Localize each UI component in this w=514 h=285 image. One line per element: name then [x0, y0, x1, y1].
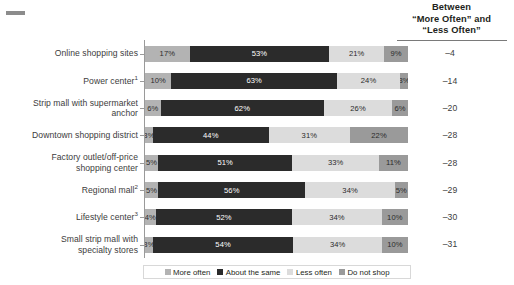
bar-segment: 26%	[324, 100, 392, 116]
net-header-line-3: “Less Often”	[392, 25, 511, 37]
bar-segment: 10%	[382, 237, 408, 253]
legend-item[interactable]: Do not shop	[339, 268, 390, 277]
bar-segment-label: 52%	[216, 213, 232, 222]
bar-segment: 54%	[153, 237, 294, 253]
stacked-bar: 10%63%24%3%	[145, 73, 408, 89]
stacked-bar: 5%56%34%5%	[145, 182, 408, 198]
bar-segment: 17%	[145, 46, 190, 62]
legend-item[interactable]: More often	[165, 268, 211, 277]
net-value: –31	[418, 239, 482, 249]
bar-segment-label: 31%	[302, 131, 318, 140]
bar-segment: 34%	[305, 182, 394, 198]
legend-label: About the same	[226, 268, 281, 277]
bar-segment-label: 17%	[160, 49, 176, 58]
net-header-line-1: Between	[392, 2, 511, 14]
bar-segment-label: 6%	[147, 104, 158, 113]
bar-segment-label: 9%	[391, 49, 402, 58]
net-value: –28	[418, 130, 482, 140]
bar-segment-label: 44%	[203, 131, 219, 140]
bar-segment-label: 10%	[387, 213, 403, 222]
bar-segment: 5%	[145, 155, 158, 171]
bar-segment: 31%	[269, 127, 351, 143]
bar-segment-label: 26%	[350, 104, 366, 113]
bar-segment: 6%	[145, 100, 161, 116]
bar-segment: 33%	[292, 155, 379, 171]
bar-segment-label: 21%	[349, 49, 365, 58]
net-column-header: Between “More Often” and “Less Often”	[392, 2, 511, 41]
bar-segment: 44%	[153, 127, 269, 143]
chart-row: Small strip mall withspecialty stores3%5…	[0, 231, 514, 259]
stacked-bar: 17%53%21%9%	[145, 46, 408, 62]
bar-segment: 53%	[190, 46, 329, 62]
bar-segment: 3%	[400, 73, 408, 89]
category-label: Factory outlet/off-priceshopping center	[8, 152, 138, 173]
bar-segment: 62%	[161, 100, 324, 116]
stacked-bar: 3%44%31%22%	[145, 127, 408, 143]
bar-segment-label: 33%	[328, 158, 344, 167]
category-label: Power center1	[8, 76, 138, 86]
bar-segment: 9%	[384, 46, 408, 62]
net-value: –30	[418, 212, 482, 222]
bar-segment-label: 51%	[217, 158, 233, 167]
bar-segment: 11%	[379, 155, 408, 171]
category-label: Downtown shopping district	[8, 130, 138, 140]
bar-segment-label: 34%	[330, 240, 346, 249]
category-label: Regional mall2	[8, 185, 138, 195]
bar-segment: 51%	[158, 155, 292, 171]
bar-segment-label: 53%	[252, 49, 268, 58]
legend-swatch-icon	[287, 269, 293, 275]
chart-row: Online shopping sites17%53%21%9%–4	[0, 40, 514, 68]
bar-segment-label: 56%	[224, 186, 240, 195]
bar-segment: 6%	[392, 100, 408, 116]
bar-segment-label: 22%	[371, 131, 387, 140]
legend-label: More often	[173, 268, 210, 277]
bar-segment-label: 54%	[215, 240, 231, 249]
category-label: Online shopping sites	[8, 48, 138, 58]
stacked-bar: 5%51%33%11%	[145, 155, 408, 171]
bar-segment: 34%	[292, 209, 381, 225]
chart-row: Strip mall with supermarketanchor6%62%26…	[0, 95, 514, 123]
category-label: Strip mall with supermarketanchor	[8, 98, 138, 119]
bar-segment: 21%	[329, 46, 384, 62]
legend-swatch-icon	[339, 269, 345, 275]
bar-segment: 34%	[293, 237, 382, 253]
category-label: Small strip mall withspecialty stores	[8, 234, 138, 255]
bar-segment-label: 10%	[150, 76, 166, 85]
bar-segment-label: 34%	[329, 213, 345, 222]
net-value: –28	[418, 158, 482, 168]
bar-segment-label: 4%	[145, 213, 156, 222]
bar-segment: 63%	[171, 73, 337, 89]
chart-legend: More oftenAbout the sameLess oftenDo not…	[143, 265, 411, 279]
net-value: –20	[418, 103, 482, 113]
bar-segment: 10%	[145, 73, 171, 89]
stacked-bar: 4%52%34%10%	[145, 209, 408, 225]
bar-segment: 5%	[145, 182, 158, 198]
bar-segment: 3%	[145, 127, 153, 143]
bar-segment: 4%	[145, 209, 156, 225]
bar-segment-label: 5%	[396, 186, 407, 195]
legend-swatch-icon	[165, 269, 171, 275]
bar-segment-label: 5%	[146, 158, 157, 167]
net-header-line-2: “More Often” and	[392, 14, 511, 26]
net-value: –14	[418, 76, 482, 86]
legend-label: Do not shop	[347, 268, 389, 277]
legend-item[interactable]: About the same	[217, 268, 280, 277]
bar-segment-label: 3%	[145, 240, 153, 249]
bar-segment-label: 5%	[146, 186, 157, 195]
net-value: –4	[418, 48, 482, 58]
bar-segment: 52%	[156, 209, 293, 225]
chart-row: Lifestyle center34%52%34%10%–30	[0, 204, 514, 232]
stacked-bar: 3%54%34%10%	[145, 237, 408, 253]
chart-row: Factory outlet/off-priceshopping center5…	[0, 149, 514, 177]
chart-row: Power center110%63%24%3%–14	[0, 67, 514, 95]
chart-row: Downtown shopping district3%44%31%22%–28	[0, 122, 514, 150]
legend-swatch-icon	[217, 269, 223, 275]
net-value: –29	[418, 185, 482, 195]
bar-segment: 3%	[145, 237, 153, 253]
bar-segment: 24%	[337, 73, 400, 89]
legend-item[interactable]: Less often	[287, 268, 331, 277]
bar-segment: 22%	[350, 127, 408, 143]
category-label: Lifestyle center3	[8, 212, 138, 222]
bar-segment-label: 34%	[342, 186, 358, 195]
bar-segment-label: 10%	[387, 240, 403, 249]
